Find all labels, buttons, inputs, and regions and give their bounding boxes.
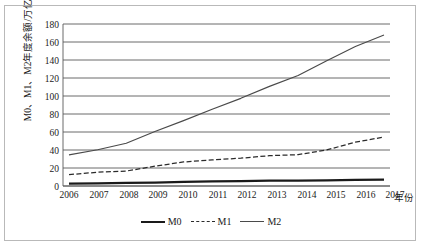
series-line-m0: [69, 180, 384, 184]
legend-label-m2: M2: [267, 216, 281, 227]
line-chart: M0、M1、M2年度余额/万亿元 180 160 140 120 100 80 …: [5, 6, 417, 242]
legend-label-m1: M1: [218, 216, 232, 227]
chart-legend: M0 M1 M2: [5, 216, 417, 227]
legend-swatch-m0-icon: [141, 221, 165, 223]
y-tick-label: 160: [25, 38, 59, 48]
plot-area: [5, 6, 417, 242]
chart-frame: M0、M1、M2年度余额/万亿元 180 160 140 120 100 80 …: [4, 5, 416, 241]
y-tick-label: 60: [25, 128, 59, 138]
x-tick-label: 2015: [320, 190, 352, 200]
y-tick-label: 80: [25, 110, 59, 120]
x-tick-label: 2013: [261, 190, 293, 200]
y-tick-label: 120: [25, 74, 59, 84]
y-tick-label: 20: [25, 164, 59, 174]
series-line-m1: [69, 137, 384, 175]
gridlines: [63, 24, 390, 186]
legend-swatch-m1-icon: [191, 221, 215, 222]
legend-swatch-m2-icon: [240, 221, 264, 222]
legend-item-m2[interactable]: M2: [240, 216, 281, 227]
x-tick-label: 2016: [350, 190, 382, 200]
x-tick-label: 2006: [53, 190, 85, 200]
y-tick-label: 100: [25, 92, 59, 102]
legend-item-m1[interactable]: M1: [191, 216, 232, 227]
x-tick-label: 2010: [172, 190, 204, 200]
y-tick-label: 180: [25, 20, 59, 30]
legend-label-m0: M0: [168, 216, 182, 227]
x-tick-label: 2008: [113, 190, 145, 200]
x-tick-label: 2012: [231, 190, 263, 200]
x-tick-label: 2007: [83, 190, 115, 200]
x-tick-label: 2009: [142, 190, 174, 200]
x-axis-title: 年份: [394, 190, 414, 204]
y-tick-label: 140: [25, 56, 59, 66]
legend-item-m0[interactable]: M0: [141, 216, 182, 227]
x-tick-label: 2014: [291, 190, 323, 200]
series-line-m2: [69, 35, 384, 155]
y-tick-label: 40: [25, 146, 59, 156]
x-tick-label: 2011: [202, 190, 234, 200]
